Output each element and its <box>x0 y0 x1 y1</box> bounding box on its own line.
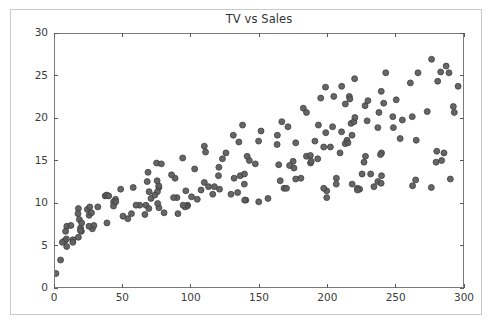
scatter-point <box>244 153 250 159</box>
scatter-point <box>397 136 403 142</box>
scatter-point <box>152 192 158 198</box>
scatter-point <box>337 150 343 156</box>
y-tick-mark <box>54 203 58 204</box>
scatter-point <box>359 171 365 177</box>
scatter-point <box>349 132 355 138</box>
scatter-point <box>120 213 126 219</box>
scatter-point <box>77 228 83 234</box>
scatter-point <box>55 271 59 277</box>
scatter-point <box>236 139 242 145</box>
x-tick-mark <box>259 284 260 288</box>
scatter-point <box>347 96 353 102</box>
scatter-point <box>446 70 452 76</box>
scatter-point <box>87 204 93 210</box>
scatter-point <box>439 158 445 164</box>
scatter-point <box>368 171 374 177</box>
scatter-point <box>133 202 139 208</box>
scatter-point <box>75 211 81 217</box>
scatter-point <box>451 109 457 115</box>
scatter-point <box>379 173 385 179</box>
scatter-point <box>210 191 216 197</box>
x-tick-label: 100 <box>171 291 211 303</box>
scatter-point <box>324 195 330 201</box>
y-tick-mark <box>460 203 464 204</box>
scatter-point <box>390 114 396 120</box>
scatter-point <box>383 70 389 76</box>
scatter-point <box>104 220 110 226</box>
scatter-point <box>330 124 336 130</box>
x-tick-label: 250 <box>376 291 416 303</box>
x-tick-mark <box>54 284 55 288</box>
scatter-point <box>235 190 241 196</box>
x-tick-mark <box>464 33 465 37</box>
scatter-point <box>219 156 225 162</box>
scatter-point <box>315 122 321 128</box>
y-tick-mark <box>54 118 58 119</box>
scatter-point <box>413 177 419 183</box>
scatter-point <box>409 114 415 120</box>
scatter-point <box>375 125 381 131</box>
scatter-point <box>450 104 456 110</box>
scatter-point <box>390 125 396 131</box>
scatter-points-layer <box>55 34 463 287</box>
scatter-point <box>130 185 136 191</box>
chart-title: TV vs Sales <box>54 12 464 26</box>
scatter-point <box>118 186 124 192</box>
scatter-point <box>241 171 247 177</box>
scatter-point <box>169 172 175 178</box>
scatter-point <box>321 144 327 150</box>
scatter-point <box>258 128 264 134</box>
scatter-point <box>339 83 345 89</box>
scatter-point <box>443 63 449 69</box>
x-tick-mark <box>327 284 328 288</box>
scatter-point <box>321 185 327 191</box>
scatter-point <box>354 187 360 193</box>
scatter-point <box>435 78 441 84</box>
x-tick-mark <box>190 284 191 288</box>
scatter-point <box>377 152 383 158</box>
scatter-point <box>283 185 289 191</box>
scatter-point <box>279 119 285 125</box>
scatter-point <box>381 100 387 106</box>
scatter-point <box>433 159 439 165</box>
scatter-point <box>215 173 221 179</box>
scatter-point <box>333 175 339 181</box>
x-tick-mark <box>327 33 328 37</box>
scatter-point <box>424 109 430 115</box>
scatter-point <box>256 199 262 205</box>
scatter-point <box>407 80 413 86</box>
scatter-point <box>70 239 76 245</box>
y-tick-mark <box>54 245 58 246</box>
scatter-point <box>285 124 291 130</box>
scatter-point <box>158 161 164 167</box>
y-tick-mark <box>460 160 464 161</box>
scatter-point <box>274 142 280 148</box>
scatter-point <box>315 156 321 162</box>
scatter-point <box>58 257 64 263</box>
scatter-point <box>293 140 299 146</box>
scatter-point <box>438 69 444 75</box>
scatter-point <box>339 129 345 135</box>
y-tick-mark <box>54 75 58 76</box>
scatter-point <box>75 234 81 240</box>
scatter-point <box>241 181 247 187</box>
scatter-point <box>68 222 74 228</box>
y-tick-label: 10 <box>14 196 48 208</box>
x-tick-mark <box>190 33 191 37</box>
scatter-point <box>318 95 324 101</box>
scatter-point <box>231 175 237 181</box>
scatter-point <box>88 210 94 216</box>
plot-area <box>54 33 464 288</box>
scatter-point <box>293 176 299 182</box>
scatter-point <box>376 109 382 115</box>
scatter-point <box>303 109 309 115</box>
scatter-point <box>146 206 152 212</box>
scatter-point <box>274 132 280 138</box>
scatter-point <box>180 155 186 161</box>
scatter-point <box>189 194 195 200</box>
scatter-point <box>361 159 367 165</box>
scatter-point <box>447 176 453 182</box>
scatter-point <box>128 211 134 217</box>
x-tick-label: 0 <box>34 291 74 303</box>
scatter-point <box>155 201 161 207</box>
